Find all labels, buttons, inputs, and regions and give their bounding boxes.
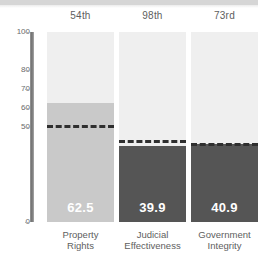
- benchmark-line-property-rights: [47, 125, 114, 128]
- y-tick-mark-60: [25, 108, 29, 109]
- category-label-line-2: Integrity: [208, 240, 242, 251]
- y-tick-80: 80: [0, 66, 30, 74]
- category-label-line-2: Rights: [67, 240, 94, 251]
- bar-value-property-rights: 62.5: [47, 200, 114, 215]
- category-label-line-1: Judicial: [137, 229, 169, 240]
- bar-value-judicial-effectiveness: 39.9: [119, 200, 186, 215]
- percentile-label-property-rights: 54th: [47, 10, 114, 21]
- percentile-label-judicial-effectiveness: 98th: [119, 10, 186, 21]
- y-tick-70: 70: [0, 85, 30, 93]
- bar-value-government-integrity: 40.9: [191, 200, 258, 215]
- category-label-line-1: Government: [198, 229, 250, 240]
- category-label-line-2: Effectiveness: [124, 240, 180, 251]
- category-label-property-rights: Property Rights: [47, 229, 114, 251]
- percentile-label-government-integrity: 73rd: [191, 10, 258, 21]
- y-tick-60: 60: [0, 104, 30, 112]
- y-tick-mark-0: [25, 222, 29, 223]
- y-tick-100: 100: [0, 28, 30, 36]
- y-tick-mark-80: [25, 70, 29, 71]
- bar-chart: 54th 98th 73rd 100 80 70 60 50 0 62.5 39…: [0, 0, 258, 259]
- y-tick-mark-50: [25, 127, 29, 128]
- y-tick-mark-70: [25, 89, 29, 90]
- category-label-line-1: Property: [63, 229, 99, 240]
- benchmark-line-government-integrity: [191, 143, 258, 146]
- benchmark-line-judicial-effectiveness: [119, 140, 186, 143]
- y-axis-line: [30, 32, 34, 222]
- category-label-government-integrity: Government Integrity: [186, 229, 258, 251]
- y-tick-50: 50: [0, 123, 30, 131]
- category-label-judicial-effectiveness: Judicial Effectiveness: [113, 229, 192, 251]
- y-tick-0: 0: [0, 218, 30, 226]
- y-tick-mark-100: [25, 32, 29, 33]
